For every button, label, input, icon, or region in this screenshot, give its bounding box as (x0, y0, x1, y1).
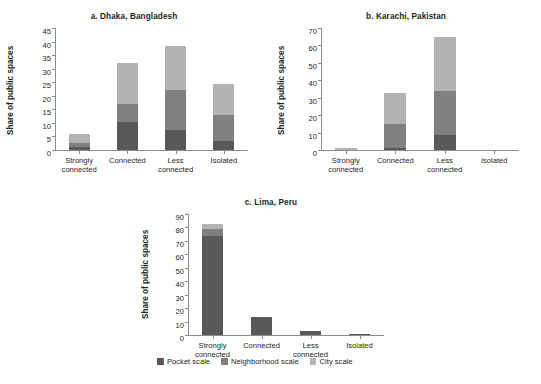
y-axis-line (188, 214, 189, 336)
bar-segment (69, 147, 90, 150)
bar-segment (434, 37, 456, 91)
y-axis-line (321, 28, 322, 151)
bar-segment (213, 115, 234, 141)
x-category-label: Connected (109, 156, 146, 165)
x-tick-mark (395, 151, 396, 154)
bar-stack (349, 334, 371, 335)
x-tick-mark (262, 336, 263, 339)
y-tick-mark (52, 96, 55, 97)
bar-segment (434, 135, 456, 150)
y-tick-mark (52, 109, 55, 110)
bar-segment (349, 334, 371, 335)
bar-stack (165, 46, 186, 150)
y-tick-mark (52, 136, 55, 137)
bar-segment (117, 63, 138, 104)
x-tick-mark (224, 151, 225, 154)
y-tick-mark (185, 281, 188, 282)
plot-area-karachi: 010203040506070 (321, 28, 519, 151)
y-tick-mark (185, 295, 188, 296)
bar-segment (251, 317, 273, 335)
chart-panel-dhaka: a. Dhaka, Bangladesh Share of public spa… (0, 0, 268, 190)
x-axis-line (321, 150, 519, 151)
bar-stack (384, 93, 406, 150)
legend-label: Neighborhood scale (231, 357, 299, 366)
bar-segment (117, 122, 138, 150)
x-category-label: Lessconnected (427, 156, 462, 175)
y-tick-mark (52, 42, 55, 43)
x-category-label: Lessconnected (158, 156, 193, 175)
plot-area-lima: 0102030405060708090 (188, 214, 384, 336)
bar-segment (117, 104, 138, 122)
x-category-label: Isolated (346, 341, 373, 350)
y-tick-mark (185, 241, 188, 242)
y-tick-mark (318, 98, 321, 99)
y-tick-mark (52, 123, 55, 124)
bar-segment (384, 124, 406, 148)
y-tick-mark (52, 82, 55, 83)
y-tick-mark (52, 55, 55, 56)
x-tick-mark (311, 336, 312, 339)
y-tick-mark (185, 322, 188, 323)
bar-segment (335, 148, 357, 150)
y-tick-mark (318, 28, 321, 29)
x-category-label: Connected (243, 341, 280, 350)
bar-stack (251, 317, 273, 335)
y-tick-mark (318, 63, 321, 64)
bar-stack (213, 84, 234, 150)
bar-segment (384, 148, 406, 150)
y-tick-mark (318, 133, 321, 134)
x-tick-mark (346, 151, 347, 154)
bar-stack (434, 37, 456, 150)
legend-item: Pocket scale (157, 357, 210, 366)
x-tick-mark (213, 336, 214, 339)
y-axis-line (55, 28, 56, 151)
bar-segment (165, 46, 186, 91)
y-axis-label-dhaka: Share of public spaces (6, 38, 15, 142)
x-tick-mark (445, 151, 446, 154)
y-tick-mark (185, 308, 188, 309)
legend-label: City scale (320, 357, 353, 366)
y-tick-mark (185, 214, 188, 215)
bar-segment (202, 236, 224, 335)
legend-swatch-icon (157, 358, 164, 365)
y-tick-mark (185, 227, 188, 228)
bar-stack (202, 224, 224, 335)
y-tick-mark (52, 28, 55, 29)
legend-swatch-icon (310, 358, 317, 365)
y-tick-mark (185, 335, 188, 336)
x-tick-mark (79, 151, 80, 154)
x-tick-mark (127, 151, 128, 154)
legend-swatch-icon (221, 358, 228, 365)
x-tick-mark (494, 151, 495, 154)
bar-segment (165, 130, 186, 150)
bar-stack (335, 148, 357, 150)
y-tick-mark (52, 69, 55, 70)
chart-title-karachi: b. Karachi, Pakistan (271, 12, 541, 21)
legend-label: Pocket scale (167, 357, 210, 366)
x-axis-line (55, 150, 248, 151)
y-tick-mark (318, 115, 321, 116)
x-category-label: Stronglyconnected (62, 156, 97, 175)
chart-panel-lima: c. Lima, Peru Share of public spaces 010… (135, 190, 407, 350)
y-tick-mark (185, 268, 188, 269)
x-axis-line (188, 335, 384, 336)
bar-segment (434, 91, 456, 135)
x-tick-mark (360, 336, 361, 339)
y-tick-mark (318, 45, 321, 46)
plot-area-dhaka: 051015202530354045 (55, 28, 248, 151)
x-category-label: Isolated (481, 156, 508, 165)
x-category-label: Isolated (211, 156, 238, 165)
bar-segment (213, 84, 234, 115)
legend-item: Neighborhood scale (221, 357, 299, 366)
x-tick-mark (176, 151, 177, 154)
y-tick-mark (318, 80, 321, 81)
bar-segment (165, 90, 186, 129)
x-category-label: Stronglyconnected (328, 156, 363, 175)
chart-title-dhaka: a. Dhaka, Bangladesh (0, 12, 268, 21)
legend-item: City scale (310, 357, 353, 366)
bar-segment (213, 141, 234, 150)
y-tick-mark (52, 150, 55, 151)
bar-stack (69, 134, 90, 150)
bar-segment (202, 229, 224, 236)
y-axis-label-karachi: Share of public spaces (277, 38, 286, 142)
